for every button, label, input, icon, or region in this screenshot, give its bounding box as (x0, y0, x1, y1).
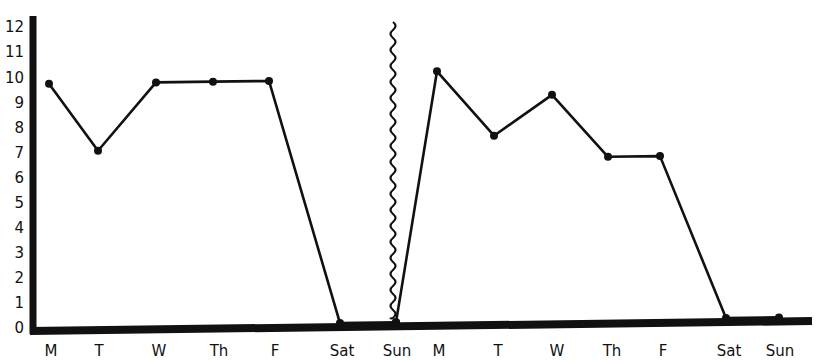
x-category-label: M (45, 342, 58, 360)
y-tick-label: 2 (14, 269, 24, 287)
x-axis-category-labels: MTWThFSatSunMTWThFSatSun (45, 342, 795, 360)
y-tick-label: 4 (14, 219, 24, 237)
y-tick-label: 8 (14, 119, 24, 137)
x-category-label: W (550, 342, 565, 360)
data-point (209, 78, 217, 86)
data-point (392, 318, 400, 326)
data-point (722, 314, 730, 322)
x-category-label: Th (602, 342, 622, 360)
data-point (152, 78, 160, 86)
y-axis-tick-labels: 0123456789101112 (5, 18, 24, 337)
x-category-label: M (433, 342, 446, 360)
x-category-label: Sat (717, 342, 742, 360)
x-category-label: Sun (766, 342, 795, 360)
data-points (45, 67, 783, 327)
x-axis-line (30, 321, 812, 331)
x-category-label: T (93, 342, 104, 360)
week-break-wavy-line (391, 22, 396, 318)
data-point (490, 132, 498, 140)
series-line-week-2 (396, 71, 779, 322)
data-point (775, 313, 783, 321)
y-tick-label: 9 (14, 94, 24, 112)
data-point (94, 147, 102, 155)
y-tick-label: 12 (5, 18, 24, 36)
y-tick-label: 5 (14, 194, 24, 212)
y-tick-label: 10 (5, 69, 24, 87)
data-series-lines (49, 71, 779, 323)
data-point (548, 91, 556, 99)
line-chart: 0123456789101112 MTWThFSatSunMTWThFSatSu… (0, 0, 816, 361)
y-tick-label: 0 (14, 319, 24, 337)
x-category-label: T (492, 342, 503, 360)
data-point (336, 319, 344, 327)
data-point (604, 153, 612, 161)
data-point (45, 80, 53, 88)
data-point (433, 67, 441, 75)
series-line-week-1 (49, 81, 396, 323)
data-point (656, 152, 664, 160)
data-point (265, 77, 273, 85)
y-tick-label: 11 (5, 43, 24, 61)
x-category-label: Sun (383, 342, 412, 360)
y-tick-label: 1 (14, 294, 24, 312)
x-category-label: W (152, 342, 167, 360)
x-category-label: F (659, 342, 668, 360)
x-category-label: Th (209, 342, 229, 360)
y-tick-label: 3 (14, 244, 24, 262)
y-tick-label: 6 (14, 169, 24, 187)
x-category-label: Sat (330, 342, 355, 360)
x-category-label: F (271, 342, 280, 360)
y-tick-label: 7 (14, 144, 24, 162)
